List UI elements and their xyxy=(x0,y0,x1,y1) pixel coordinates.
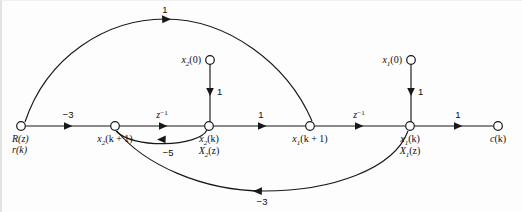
arrow-head-input-to-x2kp1-icon xyxy=(64,122,73,130)
gain-label-x1k-to-output: 1 xyxy=(455,109,460,120)
gain-label-x2k-to-x1kp1: 1 xyxy=(258,109,263,120)
x2-k-node-circle[interactable] xyxy=(205,122,214,131)
gain-label-x1-init: 1 xyxy=(418,86,423,97)
x1-k-plus-1-argument: (k + 1) xyxy=(300,133,327,145)
x2-initial-condition-node-circle[interactable] xyxy=(206,56,215,65)
x1-k-node-circle[interactable] xyxy=(406,122,415,131)
x2-k-plus-1-node-label: x2(k + 1) xyxy=(96,133,132,147)
gain-label-feedback-small: −5 xyxy=(163,147,174,158)
output-argument: (k) xyxy=(494,133,506,145)
arrow-head-x1-init-icon xyxy=(407,88,415,96)
arrow-head-upper-arc-icon xyxy=(162,15,171,23)
initial-condition-branch-group xyxy=(210,65,411,122)
signal-flow-graph-canvas: 1 −3 z−1 1 z−1 1 1 1 −5 −3 R(z) r(k) x2(… xyxy=(2,1,522,212)
arrow-head-x2-init-icon xyxy=(206,88,214,96)
x1-init-argument: (0) xyxy=(390,54,402,66)
gain-label-feedback-large: −3 xyxy=(257,196,268,207)
x1-initial-condition-node-label: x1(0) xyxy=(381,54,402,68)
gain-label-input-to-x2kp1: −3 xyxy=(63,109,74,120)
x1-k-node-label-ztransform: X1(z) xyxy=(399,145,421,159)
arrow-head-x1k-to-output-icon xyxy=(454,122,463,130)
arrow-head-feedback-large-icon xyxy=(253,187,262,195)
arrow-head-delay-2-icon xyxy=(355,122,364,130)
gain-label-delay-2-exponent: −1 xyxy=(357,109,365,117)
x1-k-plus-1-node-label: x1(k + 1) xyxy=(291,133,327,147)
gain-label-delay-1: z−1 xyxy=(155,109,168,121)
gain-label-group: 1 −3 z−1 1 z−1 1 1 1 −5 −3 xyxy=(63,4,461,207)
edge-upper-arc-path xyxy=(25,19,312,122)
gain-label-x2-init: 1 xyxy=(217,86,222,97)
x2-k-argument: (k) xyxy=(207,133,219,145)
arrow-head-x2k-to-x1kp1-icon xyxy=(258,122,267,130)
x2-init-argument: (0) xyxy=(189,54,201,66)
node-label-group: R(z) r(k) x2(k + 1) x2(k) X2(z) x1(k + 1… xyxy=(11,54,506,159)
input-node-label-secondary: r(k) xyxy=(12,144,28,156)
x2-k-node-label-ztransform: X2(z) xyxy=(198,145,220,159)
gain-label-upper-arc: 1 xyxy=(162,4,167,15)
x1-z-argument: (z) xyxy=(409,145,420,157)
arrow-head-delay-1-icon xyxy=(159,122,168,130)
x2-initial-condition-node-label: x2(0) xyxy=(180,54,201,68)
gain-label-delay-2: z−1 xyxy=(352,109,365,121)
output-node-label: c(k) xyxy=(490,133,506,145)
output-node-circle[interactable] xyxy=(494,122,503,131)
gain-label-delay-1-exponent: −1 xyxy=(160,109,168,117)
x1-k-argument: (k) xyxy=(408,133,420,145)
x2-z-argument: (z) xyxy=(208,145,219,157)
x2-k-plus-1-node-circle[interactable] xyxy=(111,122,120,131)
input-node-circle[interactable] xyxy=(17,122,26,131)
arrow-head-group xyxy=(64,15,463,195)
arrow-head-feedback-small-icon xyxy=(157,135,166,143)
signal-flow-graph-figure: 1 −3 z−1 1 z−1 1 1 1 −5 −3 R(z) r(k) x2(… xyxy=(0,0,522,212)
x2-k-plus-1-argument: (k + 1) xyxy=(105,133,132,145)
x1-k-plus-1-node-circle[interactable] xyxy=(306,122,315,131)
x1-initial-condition-node-circle[interactable] xyxy=(407,56,416,65)
